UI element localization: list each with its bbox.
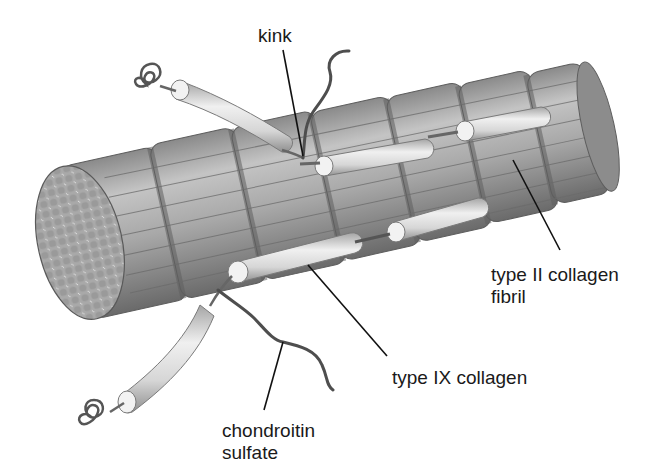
nc4-globular-domain-upper	[135, 64, 160, 87]
label-type-ix-collagen: type IX collagen	[392, 367, 527, 389]
leader-type-ix-collagen	[308, 265, 387, 356]
label-type-ii-line1: type II collagen	[491, 264, 619, 286]
label-kink: kink	[258, 25, 292, 47]
label-type-ii-collagen-fibril: type II collagen fibril	[491, 264, 619, 308]
label-chondroitin-line1: chondroitin	[222, 420, 315, 442]
nc4-globular-domain-lower	[79, 400, 103, 424]
chondroitin-chain-lower	[218, 290, 333, 390]
label-chondroitin-line2: sulfate	[222, 442, 315, 464]
collagen-fibril-illustration	[0, 0, 668, 476]
label-chondroitin-sulfate: chondroitin sulfate	[222, 420, 315, 464]
label-type-ii-line2: fibril	[491, 286, 619, 308]
leader-chondroitin-sulfate	[264, 342, 283, 410]
